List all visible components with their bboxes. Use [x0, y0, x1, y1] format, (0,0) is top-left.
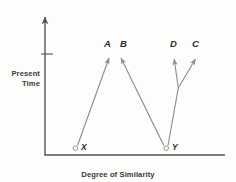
stem-y-to-branch — [168, 88, 178, 146]
arrow-branch-to-c — [178, 59, 195, 88]
arrow-branch-to-d — [174, 59, 178, 88]
y-axis-label-line1: Present — [11, 69, 40, 79]
y-axis-label: Present Time — [11, 69, 40, 88]
arrow-x-to-a — [78, 58, 110, 146]
label-x: X — [81, 143, 87, 152]
point-y-marker — [164, 146, 169, 151]
label-c: C — [192, 39, 199, 49]
label-a: A — [104, 39, 111, 49]
similarity-time-diagram — [0, 0, 236, 182]
label-b: B — [120, 39, 127, 49]
label-y: Y — [172, 143, 178, 152]
label-d: D — [170, 39, 177, 49]
x-axis-label: Degree of Similarity — [0, 163, 236, 181]
arrow-y-to-b — [121, 58, 164, 146]
point-x-marker — [73, 146, 78, 151]
x-axis-label-text: Degree of Similarity — [81, 170, 154, 179]
y-axis-label-line2: Time — [11, 79, 40, 89]
